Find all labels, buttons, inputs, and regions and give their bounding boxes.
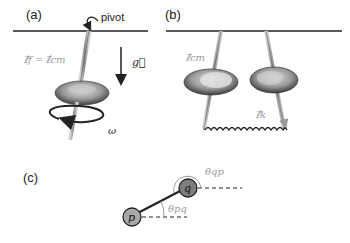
panel-c (123, 176, 242, 226)
node-p-label: p (128, 211, 135, 224)
lf-label: ℓ⃗f = ℓ⃗cm (23, 54, 66, 65)
lcm-label: ℓ⃗cm (185, 52, 205, 63)
diagram-canvas: pivot ℓ⃗f = ℓ⃗cm g⃗ ω ℓ⃗cm ℓ⃗k p q θqp θ… (0, 0, 350, 243)
theta-pq-arc (161, 201, 164, 217)
pivot-label: pivot (101, 11, 124, 23)
theta-qp-label: θqp (205, 166, 224, 177)
g-label: g⃗ (132, 56, 146, 69)
panel-b (166, 31, 342, 130)
node-q-label: q (184, 182, 191, 195)
lk-label: ℓ⃗k (255, 109, 266, 120)
spring-icon (205, 128, 287, 131)
theta-pq-label: θpq (168, 203, 187, 214)
pivot-arrow-icon (87, 17, 98, 27)
omega-label: ω (108, 125, 116, 136)
panel-a (13, 17, 148, 140)
